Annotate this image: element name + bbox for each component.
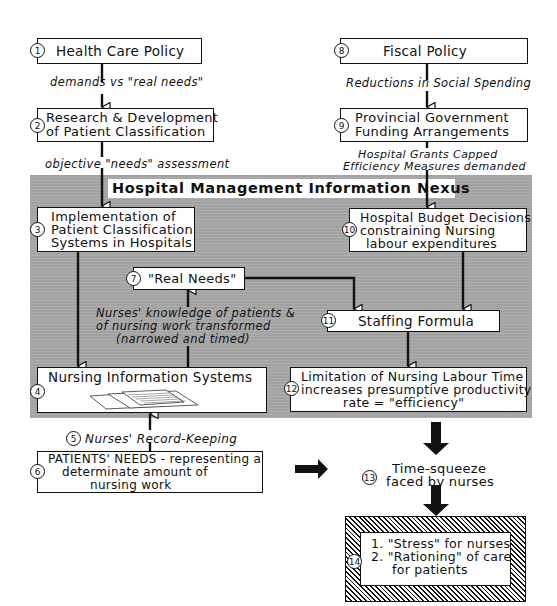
edge-label-social-spending: Reductions in Social Spending <box>346 76 531 90</box>
edge-label-demands: demands vs "real needs" <box>50 75 204 89</box>
node-hospital-budget: Hospital Budget Decisions constraining N… <box>349 208 527 252</box>
node-number-10: 10 <box>342 222 357 237</box>
node-patients-needs: PATIENTS' NEEDS - representing a determi… <box>37 451 263 493</box>
node-real-needs: "Real Needs" <box>133 267 245 290</box>
edge-label-nurses-knowledge-3: (narrowed and timed) <box>116 332 250 346</box>
node-number-4: 4 <box>30 384 45 399</box>
node-number-2: 2 <box>30 118 45 133</box>
node-number-9: 9 <box>334 118 349 133</box>
node-number-3: 3 <box>30 222 45 237</box>
edge-label-nurses-knowledge-2: of nursing work transformed <box>96 319 271 333</box>
arrow-13-to-14 <box>423 485 449 516</box>
node-number-5: 5 <box>66 431 81 446</box>
diagram-canvas: Hospital Management Information Nexus <box>0 0 557 606</box>
node-implementation-pcs: Implementation of Patient Classification… <box>37 207 195 252</box>
arrow-12-to-13 <box>423 422 449 455</box>
arrow-6-to-13 <box>295 459 328 479</box>
documents-illustration-icon <box>88 388 208 410</box>
node-number-8: 8 <box>334 43 349 58</box>
node-number-14: 14 <box>347 554 362 569</box>
node-time-squeeze-line2: faced by nurses <box>386 474 494 489</box>
edge-label-efficiency-measures: Efficiency Measures demanded <box>343 160 526 173</box>
node-staffing-formula: Staffing Formula <box>327 310 500 332</box>
edge-label-nurses-knowledge-1: Nurses' knowledge of patients & <box>96 306 295 320</box>
node-provincial-funding: Provincial Government Funding Arrangemen… <box>340 108 528 142</box>
outcomes-inner-box: 1. "Stress" for nurses 2. "Rationing" of… <box>360 532 511 586</box>
node-number-6: 6 <box>30 464 45 479</box>
node-research-development: Research & Development of Patient Classi… <box>37 108 214 142</box>
node-nursing-information-systems: Nursing Information Systems <box>37 367 267 413</box>
node-nurses-record-keeping: Nurses' Record-Keeping <box>85 432 237 446</box>
node-fiscal-policy: Fiscal Policy <box>340 38 528 64</box>
node-limitation-labour-time: Limitation of Nursing Labour Time increa… <box>290 367 527 412</box>
node-number-12: 12 <box>284 381 299 396</box>
node-number-13: 13 <box>362 470 377 485</box>
edge-label-objective-needs: objective "needs" assessment <box>45 157 230 171</box>
node-number-1: 1 <box>30 43 45 58</box>
node-outcomes-hatched: 1. "Stress" for nurses 2. "Rationing" of… <box>345 516 526 602</box>
node-number-11: 11 <box>321 313 336 328</box>
node-health-care-policy: Health Care Policy <box>37 38 202 64</box>
node-number-7: 7 <box>126 271 141 286</box>
